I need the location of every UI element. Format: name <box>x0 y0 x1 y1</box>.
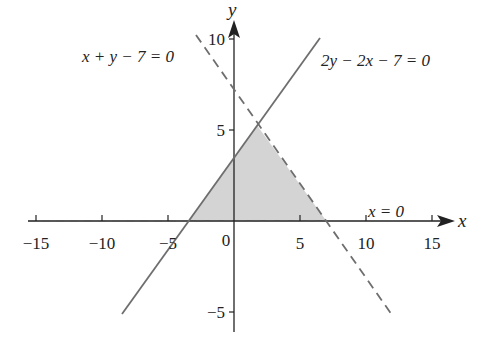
x-tick-label: 5 <box>296 234 305 253</box>
x-tick-label: −10 <box>89 234 116 253</box>
x-tick-label: −5 <box>159 234 177 253</box>
dashed-line-equation: x + y − 7 = 0 <box>81 47 175 66</box>
diagram-root: −15 −10 −5 5 10 15 0 10 5 −5 x y x + y −… <box>0 0 484 338</box>
coordinate-plane: −15 −10 −5 5 10 15 0 10 5 −5 x y x + y −… <box>0 0 484 338</box>
x-axis-label: x <box>457 210 467 231</box>
y-tick-label: 5 <box>217 121 226 140</box>
origin-label: 0 <box>222 231 231 250</box>
x-tick-label: 10 <box>358 234 375 253</box>
y-axis-label: y <box>226 0 237 20</box>
axis-line-equation: x = 0 <box>367 202 405 221</box>
shaded-region <box>188 126 327 222</box>
x-tick-label: 15 <box>424 234 441 253</box>
solid-line-equation: 2y − 2x − 7 = 0 <box>321 51 431 70</box>
y-tick-label: −5 <box>207 303 225 322</box>
y-tick-label: 10 <box>208 30 225 49</box>
x-tick-label: −15 <box>23 234 50 253</box>
